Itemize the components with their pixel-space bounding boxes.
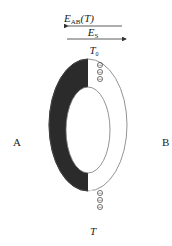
negative-charge-icon: − xyxy=(97,61,102,68)
negative-charge-icon: − xyxy=(97,196,102,203)
conductor-b-inner xyxy=(66,87,110,173)
thermocouple-diagram: EAB(T) ES T0 + + + − − − + + + − − − A B… xyxy=(0,0,172,246)
positive-charge-icon: + xyxy=(88,203,93,210)
svg-text:+: + xyxy=(88,196,93,203)
positive-charge-icon: + xyxy=(88,61,93,68)
positive-charge-icon: + xyxy=(88,75,93,82)
conductor-b-label: B xyxy=(162,136,169,148)
svg-text:+: + xyxy=(88,61,93,68)
positive-charge-icon: + xyxy=(88,196,93,203)
svg-text:+: + xyxy=(88,203,93,210)
conductor-a-label: A xyxy=(13,136,21,148)
negative-charge-icon: − xyxy=(97,75,102,82)
svg-text:+: + xyxy=(88,68,93,75)
negative-charge-icon: − xyxy=(97,189,102,196)
emf-s-label: ES xyxy=(87,26,99,40)
emf-ab-label: EAB(T) xyxy=(63,12,94,26)
svg-text:−: − xyxy=(97,75,102,82)
positive-charge-icon: + xyxy=(88,68,93,75)
svg-text:+: + xyxy=(88,189,93,196)
negative-charge-icon: − xyxy=(97,203,102,210)
junction-t0-label: T0 xyxy=(89,44,98,57)
positive-charge-icon: + xyxy=(88,189,93,196)
bottom-junction-charges: + + + − − − xyxy=(88,189,102,210)
top-junction-charges: + + + − − − xyxy=(88,61,102,82)
svg-text:−: − xyxy=(97,189,102,196)
svg-text:−: − xyxy=(97,203,102,210)
svg-text:−: − xyxy=(97,68,102,75)
junction-t-label: T xyxy=(90,225,97,237)
negative-charge-icon: − xyxy=(97,68,102,75)
svg-text:−: − xyxy=(97,61,102,68)
svg-text:−: − xyxy=(97,196,102,203)
svg-text:+: + xyxy=(88,75,93,82)
